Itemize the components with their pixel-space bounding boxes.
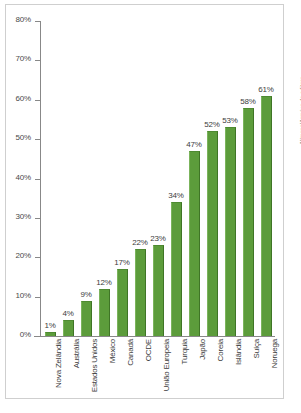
bar-value-label: 9%: [73, 290, 99, 299]
bar: [135, 249, 146, 336]
y-axis-tick-label: 0%: [20, 330, 31, 339]
y-axis-tick-mark: [35, 336, 40, 337]
bar-series: 1%4%9%12%17%22%23%34%47%52%53%58%61%: [41, 21, 275, 336]
y-axis-tick-mark: [35, 257, 40, 258]
y-axis-tick-label: 50%: [16, 133, 31, 142]
x-axis-category-label: Nova Zelândia: [54, 339, 63, 388]
y-axis-tick-label: 20%: [16, 251, 31, 260]
bar: [81, 301, 92, 336]
y-axis-tick-mark: [35, 100, 40, 101]
bar: [45, 332, 56, 336]
chart-figure: 0%10%20%30%40%50%60%70%80% 1%4%9%12%17%2…: [0, 0, 301, 413]
bar: [225, 127, 236, 336]
x-axis-category-label: Japão: [198, 339, 207, 360]
bar: [261, 96, 272, 336]
bar: [189, 151, 200, 336]
bar-value-label: 58%: [235, 97, 261, 106]
x-axis-category-label: Coreia: [216, 339, 225, 361]
x-axis-category-label: OCDE: [144, 339, 153, 361]
y-axis-tick-mark: [35, 297, 40, 298]
y-axis-tick-label: 70%: [16, 54, 31, 63]
y-axis-tick-label: 10%: [16, 291, 31, 300]
bar-value-label: 17%: [109, 258, 135, 267]
y-axis-tick-label: 80%: [16, 15, 31, 24]
bar-value-label: 4%: [55, 309, 81, 318]
bar-value-label: 1%: [37, 321, 63, 330]
bar: [63, 320, 74, 336]
y-axis-tick-label: 40%: [16, 173, 31, 182]
bar: [207, 131, 218, 336]
x-axis-line: [34, 336, 275, 337]
y-axis-tick-label: 30%: [16, 212, 31, 221]
bar-value-label: 61%: [253, 85, 279, 94]
bar-value-label: 47%: [181, 140, 207, 149]
x-axis-category-label: Suíça: [252, 339, 261, 358]
bar-value-label: 53%: [217, 116, 243, 125]
y-axis-tick-mark: [35, 139, 40, 140]
bar: [153, 245, 164, 336]
bar-value-label: 12%: [91, 278, 117, 287]
x-axis-category-label: Austrália: [72, 339, 81, 368]
bar: [117, 269, 128, 336]
bar-value-label: 23%: [145, 234, 171, 243]
x-axis-category-label: União Europeia: [162, 339, 171, 391]
bar-value-label: 34%: [163, 191, 189, 200]
y-axis-tick-mark: [35, 179, 40, 180]
x-axis-category-labels: Nova ZelândiaAustráliaEstados UnidosMéxi…: [41, 339, 275, 409]
x-axis-category-label: México: [108, 339, 117, 363]
x-axis-category-label: Noruega: [270, 339, 279, 368]
bar: [171, 202, 182, 336]
y-axis-tick-mark: [35, 218, 40, 219]
x-axis-category-label: Canadá: [126, 339, 135, 366]
y-axis-tick-label: 60%: [16, 94, 31, 103]
y-axis-tick-mark: [35, 21, 40, 22]
x-axis-category-label: Turquia: [180, 339, 189, 364]
x-axis-category-label: Islândia: [234, 339, 243, 365]
y-axis-tick-mark: [35, 60, 40, 61]
credit-text: Allmaps/Arquivo da editora: [299, 76, 301, 144]
bar: [243, 108, 254, 336]
x-axis-category-label: Estados Unidos: [90, 339, 99, 392]
bar: [99, 289, 110, 336]
